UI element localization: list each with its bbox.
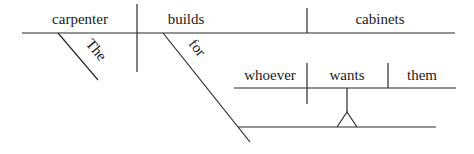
- word-verb: builds: [168, 11, 205, 27]
- word-preposition-for: for: [186, 36, 209, 60]
- word-subject: carpenter: [52, 11, 108, 27]
- pedestal-triangle: [337, 112, 357, 127]
- word-direct-object: cabinets: [355, 11, 404, 27]
- word-clause-object: them: [407, 67, 437, 83]
- word-clause-subject: whoever: [244, 67, 296, 83]
- word-clause-verb: wants: [330, 67, 365, 83]
- word-modifier-the: The: [83, 36, 110, 64]
- sentence-diagram: carpenter builds cabinets The for whoeve…: [0, 0, 474, 154]
